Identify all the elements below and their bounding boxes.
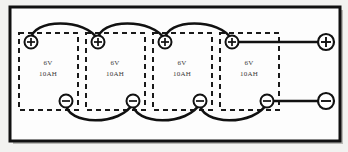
battery-1-negative-terminal [60, 95, 73, 108]
battery-4-capacity: 10AH [240, 70, 258, 78]
battery-4-positive-terminal [226, 36, 239, 49]
battery-2-positive-terminal [92, 36, 105, 49]
battery-2-voltage: 6V [111, 59, 120, 67]
battery-3-positive-terminal [159, 36, 172, 49]
battery-3-voltage: 6V [178, 59, 187, 67]
battery-3-negative-terminal [194, 95, 207, 108]
battery-1-positive-terminal [25, 36, 38, 49]
battery-wiring-diagram: 6V 10AH 6V 10AH 6V 10AH 6V 10AH [0, 0, 348, 152]
diagram-canvas: 6V 10AH 6V 10AH 6V 10AH 6V 10AH [0, 0, 348, 152]
battery-2-capacity: 10AH [106, 70, 124, 78]
output-positive-terminal [318, 34, 334, 50]
battery-3-capacity: 10AH [173, 70, 191, 78]
battery-4-negative-terminal [261, 95, 274, 108]
output-negative-terminal [318, 93, 334, 109]
battery-1-voltage: 6V [44, 59, 53, 67]
battery-2-negative-terminal [127, 95, 140, 108]
battery-1-capacity: 10AH [39, 70, 57, 78]
battery-4-voltage: 6V [245, 59, 254, 67]
